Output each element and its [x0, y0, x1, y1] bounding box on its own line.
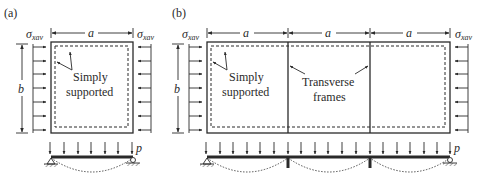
pin-support-icon: [200, 158, 214, 167]
dimension-a-label: a: [88, 26, 94, 40]
transverse-frames-label-1: Transverse: [302, 75, 354, 89]
roller-support-icon: [126, 158, 140, 167]
panel-a-label: (a): [4, 6, 17, 20]
diagram-canvas: (a) a b σxav σxav: [0, 0, 491, 182]
dimension-b-label: b: [174, 82, 180, 96]
dimension-a-label-3: a: [406, 26, 412, 40]
panel-b-label: (b): [172, 6, 186, 20]
stress-left-label: σxav: [26, 27, 43, 42]
panel-a: (a) a b σxav σxav: [4, 6, 154, 172]
simply-supported-label-1: Simply: [73, 70, 108, 84]
stress-arrows-right: [455, 44, 468, 133]
dimension-a-label-2: a: [325, 26, 331, 40]
simply-supported-pointers: [57, 52, 72, 70]
deflected-shape: [51, 158, 133, 172]
simply-supported-label-1: Simply: [229, 70, 264, 84]
stress-arrows-left: [189, 44, 202, 133]
deflected-shape: [207, 158, 450, 172]
simply-supported-label-2: supported: [222, 85, 269, 99]
pin-support-icon: [44, 158, 58, 167]
stress-left-label: σxav: [182, 27, 199, 42]
stress-arrows-right: [138, 44, 151, 133]
simply-supported-pointers: [213, 52, 227, 70]
transverse-frames-pointers: [290, 66, 368, 74]
dimension-b-label: b: [18, 82, 24, 96]
load-label: p: [135, 141, 142, 155]
panel-b: (b) a a a b σxav σxav: [172, 6, 472, 172]
distributed-load-arrows: [206, 142, 450, 154]
roller-support-icon: [443, 158, 457, 167]
load-label: p: [453, 141, 460, 155]
simply-supported-label-2: supported: [66, 85, 113, 99]
transverse-frames-label-2: frames: [313, 90, 346, 104]
distributed-load-arrows: [50, 142, 132, 154]
dimension-a-label-1: a: [243, 26, 249, 40]
stress-right-label: σxav: [455, 27, 472, 42]
stress-arrows-left: [33, 44, 46, 133]
stress-right-label: σxav: [137, 27, 154, 42]
